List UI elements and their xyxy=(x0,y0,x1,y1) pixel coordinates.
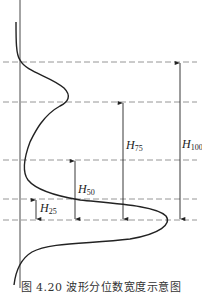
label-h50: H50 xyxy=(78,183,95,197)
label-h75-sub: 75 xyxy=(135,144,143,153)
label-h25-sub: 25 xyxy=(49,207,57,216)
label-h75: H75 xyxy=(126,139,143,153)
label-h50-main: H xyxy=(78,182,87,196)
label-h100-sub: 100 xyxy=(191,143,202,152)
label-h25-main: H xyxy=(40,201,49,215)
figure-caption: 图 4.20 波形分位数宽度示意图 xyxy=(0,278,202,294)
label-h25: H25 xyxy=(40,202,57,216)
waveform-curve xyxy=(14,22,168,285)
label-h100: H100 xyxy=(182,138,202,152)
label-h100-main: H xyxy=(182,137,191,151)
label-h50-sub: 50 xyxy=(87,188,95,197)
dashed-level-lines xyxy=(3,62,197,220)
label-h75-main: H xyxy=(126,138,135,152)
waveform-quantile-width-diagram xyxy=(0,0,202,295)
